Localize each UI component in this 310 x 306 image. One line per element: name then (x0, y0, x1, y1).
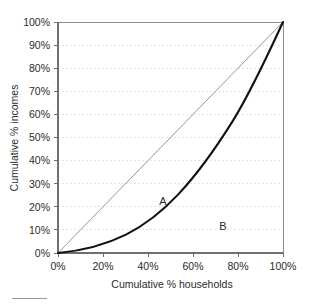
x-axis-tick-labels: 0% 20% 40% 60% 80% 100% (50, 260, 296, 272)
y-axis-tick-labels: 100% 90% 80% 70% 60% 50% 40% 30% 20% 10%… (23, 16, 50, 259)
y-tick-label: 50% (29, 131, 50, 143)
lorenz-curve-chart: 100% 90% 80% 70% 60% 50% 40% 30% 20% 10%… (0, 0, 310, 306)
y-tick-label: 90% (29, 39, 50, 51)
y-tick-label: 80% (29, 62, 50, 74)
x-axis-title: Cumulative % households (111, 278, 232, 290)
region-label-b: B (219, 220, 226, 232)
y-tick-label: 0% (35, 247, 50, 259)
y-tick-label: 20% (29, 201, 50, 213)
chart-canvas: 100% 90% 80% 70% 60% 50% 40% 30% 20% 10%… (0, 0, 310, 306)
y-axis-tick-marks (54, 22, 58, 253)
y-axis-title: Cumulative % incomes (8, 85, 20, 192)
x-tick-label: 80% (227, 260, 248, 272)
y-tick-label: 70% (29, 85, 50, 97)
y-tick-label: 100% (23, 16, 50, 28)
y-tick-label: 30% (29, 178, 50, 190)
y-tick-label: 40% (29, 154, 50, 166)
region-label-a: A (159, 195, 167, 207)
x-tick-label: 60% (182, 260, 203, 272)
y-tick-label: 60% (29, 108, 50, 120)
x-tick-label: 40% (137, 260, 158, 272)
y-tick-label: 10% (29, 224, 50, 236)
x-tick-label: 20% (92, 260, 113, 272)
x-axis-tick-marks (58, 253, 283, 257)
x-tick-label: 100% (270, 260, 297, 272)
x-tick-label: 0% (50, 260, 65, 272)
